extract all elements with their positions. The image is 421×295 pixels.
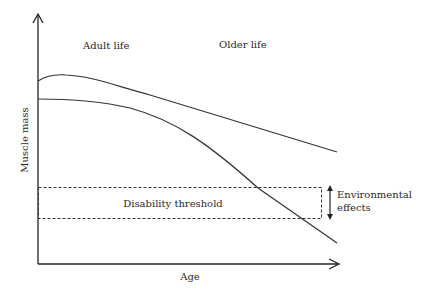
lower-trajectory-curve	[38, 99, 337, 243]
environmental-effects-label-line2: effects	[337, 202, 371, 213]
environmental-effects-double-arrow-icon	[327, 185, 333, 220]
x-axis-label: Age	[179, 271, 200, 282]
older-life-label: Older life	[219, 39, 267, 50]
disability-threshold-label: Disability threshold	[123, 198, 223, 209]
y-axis-label: Muscle mass	[19, 107, 30, 172]
adult-life-label: Adult life	[82, 40, 130, 51]
y-axis	[33, 14, 43, 264]
muscle-mass-diagram: Adult life Older life Muscle mass Age Di…	[0, 0, 421, 295]
upper-trajectory-curve	[38, 75, 337, 152]
x-axis	[38, 259, 339, 269]
environmental-effects-label-line1: Environmental	[337, 189, 412, 200]
